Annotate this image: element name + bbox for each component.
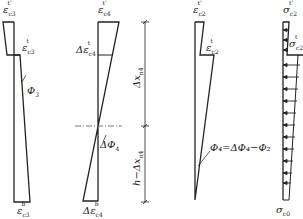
label-sigma-c2-mid: σc2t bbox=[289, 38, 303, 51]
label-sigma-c0: σc0 bbox=[276, 205, 290, 217]
stress-arrows bbox=[283, 29, 300, 185]
label-phi3: Φ3 bbox=[27, 86, 39, 98]
label-eps-c3-mid: εc3t bbox=[22, 42, 37, 55]
label-eps-c3-bottom: εc3b bbox=[17, 205, 33, 218]
label-eps-c4-top: εc4t' bbox=[98, 4, 115, 17]
label-dx-upper: Δxn4 bbox=[132, 67, 144, 88]
label-phi4-equation: Φ₄=ΔΦ₄−Φ₂ bbox=[210, 143, 271, 153]
label-dx-lower: h−Δxn4 bbox=[132, 151, 144, 186]
label-sigma-c2-top: σc2t' bbox=[283, 4, 301, 17]
label-eps-c3-top: εc3t' bbox=[3, 4, 20, 17]
label-eps-c2-mid: εc2t bbox=[206, 42, 221, 55]
label-delta-eps-c4-bottom: Δεc4b bbox=[83, 205, 107, 218]
label-delta-eps-c4: Δεc4t bbox=[76, 44, 98, 57]
diagram-canvas bbox=[0, 0, 303, 219]
label-eps-c2-top: εc2t' bbox=[193, 4, 210, 17]
label-delta-phi4: ΔΦ4 bbox=[100, 140, 119, 152]
